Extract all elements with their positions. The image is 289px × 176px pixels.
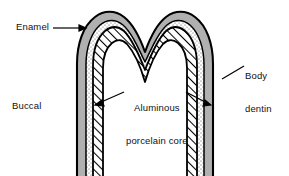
label-core-line1: Aluminous <box>126 102 188 113</box>
label-core-line2: porcelain core <box>126 135 188 146</box>
label-enamel: Enamel <box>16 21 49 32</box>
label-body-dentin-line2: dentin <box>245 103 272 114</box>
diagram-root: Enamel Buccal Body dentin Aluminous porc… <box>0 0 289 176</box>
label-buccal: Buccal <box>12 100 41 111</box>
label-body-dentin-line1: Body <box>245 70 272 81</box>
label-porcelain-core: Aluminous porcelain core <box>126 80 188 168</box>
body-dentin-leader <box>222 66 244 79</box>
label-body-dentin: Body dentin <box>245 48 272 136</box>
